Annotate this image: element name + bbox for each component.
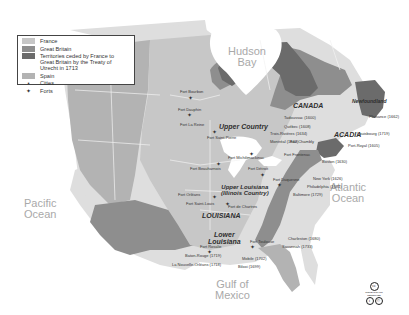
fort-beauharnois: Fort Beauharnois xyxy=(190,167,221,171)
city-tadoussac: Tadoussac (1600) xyxy=(284,116,316,120)
city-dot-icon: • xyxy=(22,80,35,86)
legend-item-cities: • Cities xyxy=(22,80,130,86)
fort-icon: ✦ xyxy=(276,182,282,188)
label-line: Ocean xyxy=(24,209,56,220)
fort-michilimackinac: Fort Michilimackinac xyxy=(228,156,264,160)
label-hudson-bay: Hudson Bay xyxy=(228,46,266,68)
fort-icon: ✦ xyxy=(224,201,230,207)
fort-icon: ✦ xyxy=(248,151,254,157)
legend-item-spain: Spain xyxy=(22,73,130,79)
fort-saint-louis: Fort Saint-Louis xyxy=(186,202,214,206)
fort-icon: ✦ xyxy=(206,249,212,255)
fort-icon: ✦ xyxy=(215,161,221,167)
city-philadelphia: Philadelphia (1681) xyxy=(307,185,341,189)
great-britain-swatch xyxy=(22,46,35,52)
fort-icon: ✦ xyxy=(22,88,35,94)
legend-item-great-britain: Great Britain xyxy=(22,46,130,52)
fort-bourbon: Fort Bourbon xyxy=(180,90,203,94)
city-louisbourg: Louisbourg (1719) xyxy=(357,132,389,136)
legend-item-forts: ✦ Forts xyxy=(22,88,130,94)
france-swatch xyxy=(22,38,35,44)
cc-icon: cc xyxy=(370,282,379,291)
city-boston: Boston (1630) xyxy=(322,160,347,164)
fort-icon: ✦ xyxy=(249,244,255,250)
city-biloxi: Biloxi (1699) xyxy=(238,265,260,269)
city-charleston: Charleston (1680) xyxy=(288,237,320,241)
copyright-icon: © xyxy=(375,297,383,305)
fort-detroit: Fort Détroit xyxy=(248,167,268,171)
city-new-york: New York (1626) xyxy=(313,177,343,181)
label-lower-louisiana: Lower Louisiana xyxy=(208,231,241,245)
label-line: Mexico xyxy=(215,290,250,301)
city-baton-rouge: Baton-Rouge (1719) xyxy=(185,254,221,258)
fort-icon: ✦ xyxy=(259,172,265,178)
florida xyxy=(258,244,300,292)
ceded-swatch xyxy=(22,53,35,59)
fort-icon: ✦ xyxy=(187,95,193,101)
legend-label: Great Britain xyxy=(40,46,71,52)
legend-label: Territories ceded by France to Great Bri… xyxy=(40,53,118,71)
license-badge: cc SOME RIGHTS RESERVED i © xyxy=(361,273,387,305)
label-newfoundland: Newfoundland xyxy=(352,98,386,105)
city-mobile: Mobile (1702) xyxy=(242,257,266,261)
city-new-orleans: La Nouvelle-Orléans (1718) xyxy=(172,263,221,267)
label-line: (Illinois Country) xyxy=(221,190,269,196)
fort-frontenac: Fort Frontenac xyxy=(284,153,310,157)
fort-icon: ✦ xyxy=(211,194,217,200)
city-savannah: Savannah (1733) xyxy=(282,245,313,249)
fort-icon: ✦ xyxy=(211,129,217,135)
legend-label: Spain xyxy=(40,73,54,79)
fort-saint-pierre: Fort Saint-Pierre xyxy=(207,136,236,140)
label-canada: CANADA xyxy=(293,102,323,109)
label-line: Bay xyxy=(228,57,266,68)
label-upper-louisiana: Upper Louisiana (Illinois Country) xyxy=(221,184,269,196)
label-line: Ocean xyxy=(330,193,366,204)
label-gulf-of-mexico: Gulf of Mexico xyxy=(215,279,250,301)
map-legend: France Great Britain Territories ceded b… xyxy=(17,35,135,85)
city-plaisance: Plaisance (1662) xyxy=(369,115,399,119)
legend-item-france: France xyxy=(22,38,130,44)
label-louisiana: LOUISIANA xyxy=(202,212,241,219)
label-line: Lower xyxy=(208,231,241,238)
fort-chambly: Fort Chambly xyxy=(290,140,314,144)
fort-icon: ✦ xyxy=(186,112,192,118)
label-upper-country: Upper Country xyxy=(219,123,268,130)
fort-orleans: Fort Orléans xyxy=(178,193,200,197)
city-quebec: Québec (1608) xyxy=(284,125,311,129)
legend-item-ceded: Territories ceded by France to Great Bri… xyxy=(22,53,130,71)
legend-label: Cities xyxy=(40,80,54,86)
city-port-royal: Port-Royal (1605) xyxy=(348,144,380,148)
city-trois-rivieres: Trois-Rivières (1634) xyxy=(270,132,307,136)
legend-label: Forts xyxy=(40,88,53,94)
spain-swatch xyxy=(22,73,35,79)
label-pacific-ocean: Pacific Ocean xyxy=(24,198,56,220)
city-baltimore: Baltimore (1729) xyxy=(293,193,323,197)
fort-la-reine: Fort La Reine xyxy=(180,123,204,127)
fort-de-chartres: Fort de Chartres xyxy=(228,205,257,209)
legend-label: France xyxy=(40,38,57,44)
attribution-icon: i xyxy=(366,297,374,305)
